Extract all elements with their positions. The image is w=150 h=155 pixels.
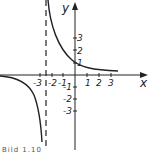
x-tick-label: -2 xyxy=(48,78,57,88)
y-axis-label: y xyxy=(61,1,70,15)
y-tick-label: -1 xyxy=(63,82,72,92)
x-tick-label: 1 xyxy=(85,78,91,88)
curve-right-branch xyxy=(48,0,118,71)
x-tick-label: 2 xyxy=(96,78,102,88)
function-graph: -3 -2 -1 1 2 3 3 2 1 -1 -2 -3 x y xyxy=(0,0,150,155)
y-tick-label: -2 xyxy=(63,94,72,104)
y-tick-label: -3 xyxy=(63,106,72,116)
x-tick-label: 3 xyxy=(108,78,114,88)
figure-caption: Bild 1.10 xyxy=(2,146,42,154)
x-axis-label: x xyxy=(139,76,148,90)
x-tick-label: -3 xyxy=(33,78,42,88)
y-tick-label: 3 xyxy=(77,33,83,43)
y-tick-label: 2 xyxy=(77,46,83,56)
y-axis-arrow-icon xyxy=(72,2,78,10)
